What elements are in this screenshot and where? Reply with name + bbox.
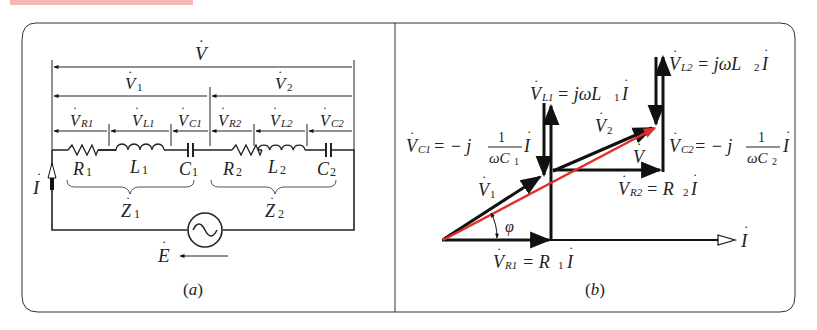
svg-text:1: 1 xyxy=(514,156,519,167)
svg-text:= jωL: = jωL xyxy=(697,54,741,74)
svg-text:·: · xyxy=(637,136,641,151)
svg-text:·: · xyxy=(270,191,274,205)
svg-text:·: · xyxy=(37,166,41,181)
svg-text:R1: R1 xyxy=(80,117,93,129)
capacitor-c2 xyxy=(326,143,331,157)
svg-text:1: 1 xyxy=(142,163,148,177)
current-axis-arrow-icon xyxy=(718,235,735,245)
svg-text:1: 1 xyxy=(86,165,92,179)
svg-text:·: · xyxy=(221,101,225,115)
svg-text:·: · xyxy=(126,191,130,205)
svg-text:L2: L2 xyxy=(280,117,293,129)
svg-text:·: · xyxy=(162,234,166,249)
svg-text:= − j: = − j xyxy=(433,136,471,156)
svg-text:2: 2 xyxy=(287,81,293,93)
caption-a: (a) xyxy=(183,280,203,299)
svg-text:·: · xyxy=(569,240,573,255)
svg-text:I: I xyxy=(523,136,531,156)
svg-text:I: I xyxy=(761,54,769,74)
diagram-canvas: V · V 1 · V 2 · VR1 VL1 VC1 VR2 VL2 VC2 … xyxy=(0,0,817,330)
svg-text:2: 2 xyxy=(683,186,689,198)
svg-text:2: 2 xyxy=(278,207,284,221)
svg-text:2: 2 xyxy=(772,156,777,167)
svg-text:C: C xyxy=(179,159,192,179)
svg-text:= − j: = − j xyxy=(694,136,732,156)
svg-text:·: · xyxy=(673,125,677,140)
inductor-l2 xyxy=(258,145,305,150)
svg-text:ωC: ωC xyxy=(747,150,769,166)
svg-text:·: · xyxy=(764,42,768,57)
svg-text:1: 1 xyxy=(558,259,564,271)
ac-source-icon xyxy=(188,213,222,247)
svg-text:·: · xyxy=(673,43,677,58)
svg-text:I: I xyxy=(782,136,790,156)
svg-text:·: · xyxy=(278,64,282,79)
svg-text:R1: R1 xyxy=(504,259,517,271)
svg-text:C1: C1 xyxy=(189,117,202,129)
phasor-v1 xyxy=(444,177,540,239)
svg-text:·: · xyxy=(482,169,486,184)
svg-text:2: 2 xyxy=(754,61,760,73)
svg-text:I: I xyxy=(690,179,698,199)
current-arrow-i xyxy=(48,163,56,190)
svg-text:L: L xyxy=(267,157,278,177)
capacitor-c1 xyxy=(188,143,193,157)
svg-text:R2: R2 xyxy=(629,186,643,198)
svg-text:ωC: ωC xyxy=(489,150,511,166)
svg-text:C: C xyxy=(317,159,330,179)
phi-angle-arc xyxy=(491,213,497,238)
svg-text:1: 1 xyxy=(758,130,765,145)
svg-text:L1: L1 xyxy=(541,91,554,103)
svg-text:·: · xyxy=(135,101,139,115)
svg-text:·: · xyxy=(744,219,748,234)
svg-text:= jωL: = jωL xyxy=(557,84,601,104)
svg-text:1: 1 xyxy=(137,81,143,93)
svg-text:1: 1 xyxy=(490,188,496,200)
svg-text:·: · xyxy=(693,167,697,182)
svg-text:1: 1 xyxy=(498,130,505,145)
svg-text:I: I xyxy=(566,252,574,272)
svg-text:φ: φ xyxy=(505,218,514,236)
resistor-r1 xyxy=(68,145,98,155)
caption-b: (b) xyxy=(585,280,605,299)
svg-text:·: · xyxy=(199,34,204,49)
svg-text:1: 1 xyxy=(134,207,140,221)
svg-text:·: · xyxy=(527,124,531,139)
svg-text:·: · xyxy=(599,105,603,120)
svg-text:2: 2 xyxy=(280,163,286,177)
svg-text:= R: = R xyxy=(522,252,550,272)
svg-text:·: · xyxy=(497,241,501,256)
svg-text:R: R xyxy=(222,159,234,179)
svg-text:·: · xyxy=(534,73,538,88)
svg-text:R: R xyxy=(72,159,84,179)
svg-text:R2: R2 xyxy=(228,117,242,129)
svg-text:·: · xyxy=(410,125,414,140)
svg-text:2: 2 xyxy=(607,124,613,136)
svg-text:·: · xyxy=(273,101,277,115)
svg-text:C2: C2 xyxy=(681,143,694,155)
svg-text:= R: = R xyxy=(646,179,674,199)
svg-text:2: 2 xyxy=(330,165,336,179)
svg-text:·: · xyxy=(128,64,132,79)
header-bar xyxy=(10,0,193,5)
svg-text:·: · xyxy=(73,101,77,115)
brace-z1 xyxy=(67,180,194,194)
resistor-r2 xyxy=(232,145,262,155)
svg-text:L2: L2 xyxy=(680,61,693,73)
svg-text:2: 2 xyxy=(236,165,242,179)
inductor-l1 xyxy=(98,144,164,150)
phasor-panel-b: V L2 · = jωL 2 I · V L1 · = jωL 1 I · V … xyxy=(406,42,790,299)
svg-text:L: L xyxy=(129,157,140,177)
svg-text:·: · xyxy=(323,101,327,115)
svg-text:C2: C2 xyxy=(331,117,344,129)
circuit-panel-a: V · V 1 · V 2 · VR1 VL1 VC1 VR2 VL2 VC2 … xyxy=(32,34,354,299)
svg-text:I: I xyxy=(621,84,629,104)
svg-text:·: · xyxy=(622,168,626,183)
svg-text:1: 1 xyxy=(614,91,620,103)
svg-text:·: · xyxy=(786,124,790,139)
svg-text:C1: C1 xyxy=(418,143,431,155)
svg-text:·: · xyxy=(624,72,628,87)
svg-text:1: 1 xyxy=(192,165,198,179)
svg-text:L1: L1 xyxy=(142,117,155,129)
svg-text:·: · xyxy=(181,101,185,115)
